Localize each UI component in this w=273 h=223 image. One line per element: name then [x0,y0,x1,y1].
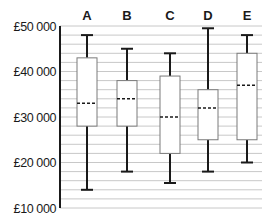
boxes [77,28,257,190]
iqr-box [198,90,218,140]
category-label: C [165,8,175,23]
category-label: A [82,8,92,23]
y-tick-label: £20 000 [14,156,57,170]
box-a [77,35,97,190]
box-e [237,35,257,162]
category-label: B [122,8,131,23]
category-label: D [203,8,212,23]
iqr-box [160,76,180,153]
y-tick-label: £50 000 [14,20,57,34]
iqr-box [237,53,257,139]
iqr-box [117,81,137,127]
box-d [198,28,218,171]
box-plot-chart: £10 000£20 000£30 000£40 000£50 000 ABCD… [0,0,273,223]
y-tick-label: £10 000 [14,202,57,216]
y-tick-label: £30 000 [14,111,57,125]
category-label: E [243,8,252,23]
iqr-box [77,58,97,126]
box-c [160,53,180,183]
category-labels: ABCDE [82,8,251,23]
y-axis: £10 000£20 000£30 000£40 000£50 000 [14,20,60,216]
y-tick-label: £40 000 [14,65,57,79]
